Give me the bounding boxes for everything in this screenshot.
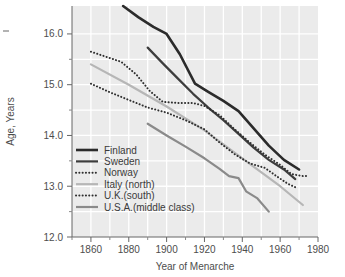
y-tick-label: 14.0: [44, 130, 64, 141]
y-axis-title: Age, Years: [5, 97, 16, 145]
legend-label: Finland: [104, 145, 137, 156]
x-axis-title: Year of Menarche: [156, 261, 235, 272]
legend-label: U.K.(south): [104, 190, 155, 201]
x-tick-label: 1940: [231, 244, 254, 255]
y-tick-label: 16.0: [44, 28, 64, 39]
x-tick-label: 1980: [307, 244, 330, 255]
x-tick-label: 1960: [269, 244, 292, 255]
menarche-age-line-chart: 186018801900192019401960198012.013.014.0…: [0, 0, 345, 277]
figure-container: 186018801900192019401960198012.013.014.0…: [0, 0, 345, 277]
x-tick-label: 1860: [80, 244, 103, 255]
y-tick-label: 13.0: [44, 181, 64, 192]
legend-label: Italy (north): [104, 179, 155, 190]
legend-label: U.S.A.(middle class): [104, 202, 195, 213]
x-tick-label: 1920: [193, 244, 216, 255]
y-tick-label: 12.0: [44, 232, 64, 243]
y-tick-label: 15.0: [44, 79, 64, 90]
legend-label: Norway: [104, 167, 138, 178]
legend-label: Sweden: [104, 156, 140, 167]
x-tick-label: 1880: [118, 244, 141, 255]
x-tick-label: 1900: [155, 244, 178, 255]
